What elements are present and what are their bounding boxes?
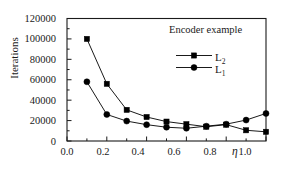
data-point-L2-8: [244, 128, 249, 133]
data-point-L1-2: [124, 118, 130, 124]
legend-marker-L1: [191, 65, 197, 71]
data-point-L1-6: [203, 123, 209, 129]
data-point-L1-1: [104, 111, 110, 117]
chart-figure: Iterations 120000 100000 80000 60000 400…: [0, 0, 282, 173]
legend-marker-L2: [191, 53, 196, 58]
data-point-L1-4: [164, 124, 170, 130]
legend-markers: [176, 53, 212, 71]
data-point-L1-0: [84, 79, 90, 85]
data-point-L2-9: [263, 129, 268, 134]
data-point-L1-7: [223, 121, 229, 127]
data-series: [84, 36, 269, 134]
data-point-L1-5: [183, 125, 189, 131]
data-point-L1-3: [144, 122, 150, 128]
series-line-L2: [87, 39, 266, 132]
plot-area: [0, 0, 282, 173]
data-point-L2-1: [104, 81, 109, 86]
series-line-L1: [87, 82, 266, 128]
data-point-L2-0: [84, 36, 89, 41]
data-point-L1-9: [263, 110, 269, 116]
data-point-L1-8: [243, 117, 249, 123]
data-point-L2-2: [124, 107, 129, 112]
data-point-L2-3: [144, 114, 149, 119]
data-point-L2-4: [164, 119, 169, 124]
